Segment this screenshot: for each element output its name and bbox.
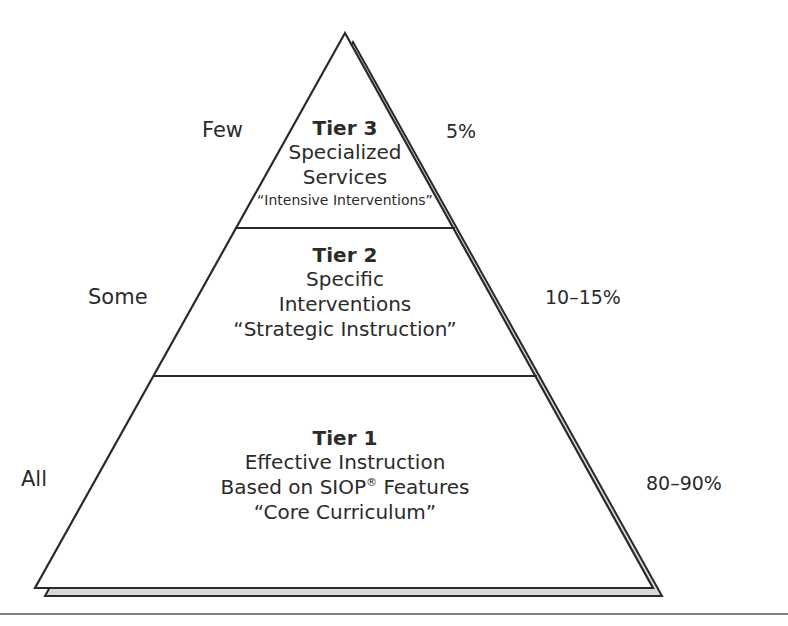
label-few: Few xyxy=(202,118,243,142)
label-80-90-percent: 80–90% xyxy=(646,472,722,494)
tier-1-line-3: “Core Curriculum” xyxy=(221,500,470,525)
tier-1-line-2-head: Based on SIOP xyxy=(221,475,366,499)
tier-3-title: Tier 3 xyxy=(257,116,433,140)
label-10-15-percent: 10–15% xyxy=(545,286,621,308)
tier-1-title: Tier 1 xyxy=(221,426,470,450)
tier-2-line-3: “Strategic Instruction” xyxy=(233,317,456,342)
label-5-percent: 5% xyxy=(446,120,476,142)
label-all: All xyxy=(21,467,47,491)
tier-3-line-1: Specialized xyxy=(257,140,433,165)
tier-1-line-2: Based on SIOP® Features xyxy=(221,475,470,500)
tier-2-title: Tier 2 xyxy=(233,243,456,267)
tier-3-text: Tier 3 Specialized Services “Intensive I… xyxy=(257,116,433,210)
registered-mark: ® xyxy=(366,476,377,489)
tier-3-subtitle: “Intensive Interventions” xyxy=(257,190,433,210)
tier-1-text: Tier 1 Effective Instruction Based on SI… xyxy=(221,426,470,525)
tier-1-line-2-tail: Features xyxy=(377,475,469,499)
tier-2-line-2: Interventions xyxy=(233,292,456,317)
tier-3-line-2: Services xyxy=(257,165,433,190)
tier-2-line-1: Specific xyxy=(233,267,456,292)
tier-1-line-1: Effective Instruction xyxy=(221,450,470,475)
tier-2-text: Tier 2 Specific Interventions “Strategic… xyxy=(233,243,456,342)
label-some: Some xyxy=(88,285,148,309)
